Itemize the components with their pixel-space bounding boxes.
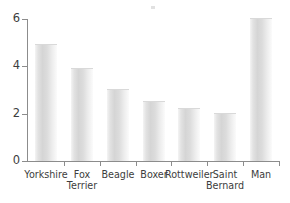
- y-tick-label: 2: [0, 108, 20, 119]
- bar: [35, 44, 57, 161]
- x-tick-mark: [207, 161, 208, 166]
- x-tick-mark: [171, 161, 172, 166]
- bar: [143, 101, 165, 161]
- y-tick-mark: [22, 161, 27, 162]
- y-tick-label: 6: [0, 13, 20, 24]
- x-category-label: Man: [237, 169, 285, 180]
- y-tick-mark: [22, 114, 27, 115]
- bar: [107, 89, 129, 161]
- bar: [71, 68, 93, 161]
- bar-chart: 6420 YorkshireFox TerrierBeagleBoxerRott…: [0, 0, 290, 203]
- y-tick-mark: [22, 19, 27, 20]
- bar: [250, 18, 272, 161]
- bar: [214, 113, 236, 161]
- x-tick-mark: [64, 161, 65, 166]
- y-tick-label: 0: [0, 155, 20, 166]
- x-tick-mark: [243, 161, 244, 166]
- bar: [178, 108, 200, 161]
- x-tick-mark: [136, 161, 137, 166]
- plot-area: 6420 YorkshireFox TerrierBeagleBoxerRott…: [0, 0, 290, 203]
- y-axis-line: [27, 19, 28, 162]
- x-tick-mark: [279, 161, 280, 166]
- y-tick-label: 4: [0, 60, 20, 71]
- y-tick-mark: [22, 66, 27, 67]
- x-tick-mark: [100, 161, 101, 166]
